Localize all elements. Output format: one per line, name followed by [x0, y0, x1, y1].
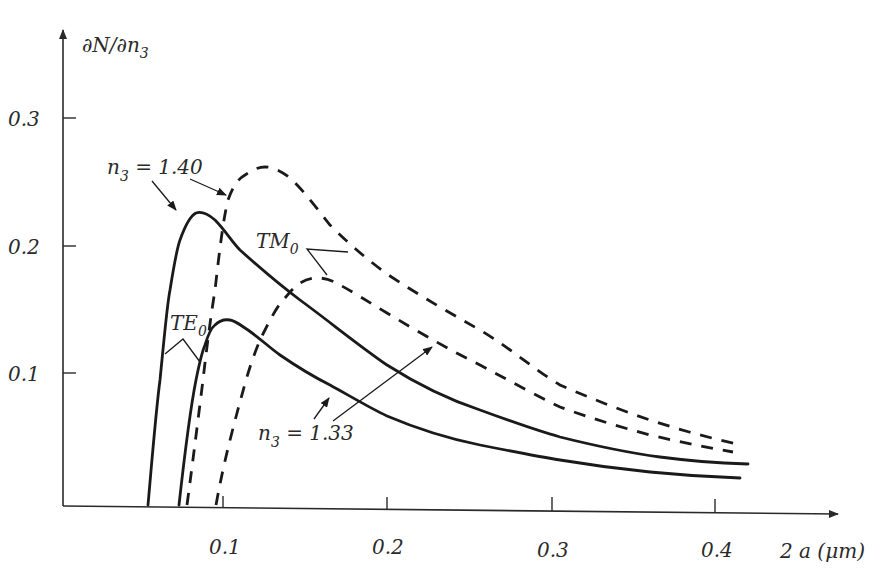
arrow-icon: [190, 179, 226, 195]
curve-te0-n133: [179, 320, 740, 505]
y-tick-label: 0.2: [8, 235, 40, 259]
y-axis-label: ∂N/∂n3: [82, 33, 149, 61]
x-tick-label: 0.1: [209, 535, 241, 559]
curve-tm0-n140: [187, 167, 741, 505]
label-tm0: TM0: [256, 229, 299, 257]
y-tick-label: 0.3: [8, 107, 40, 131]
curve-te0-n140: [148, 212, 748, 505]
x-axis-label: 2 a (μm): [779, 539, 865, 563]
annotation-tm0: TM0: [256, 229, 348, 275]
curve-tm0-n133: [216, 278, 733, 505]
y-tick-label: 0.1: [8, 362, 40, 386]
arrow-icon: [152, 181, 176, 210]
x-tick-label: 0.3: [537, 538, 569, 562]
arrow-icon: [314, 398, 329, 419]
annotation-n3-133: n3 = 1.33: [258, 347, 432, 450]
x-tick-label: 0.2: [372, 535, 404, 559]
x-tick-label: 0.4: [701, 538, 733, 562]
tm0-pointer: [307, 249, 348, 275]
chart-canvas: 0.3 0.2 0.1 0.1 0.2 0.3 0.4 ∂N/∂n3 2 a (…: [0, 0, 872, 578]
x-axis: [63, 506, 838, 514]
annotation-n3-140: n3 = 1.40: [107, 155, 226, 210]
label-n3-133: n3 = 1.33: [258, 421, 354, 450]
te0-pointer: [165, 339, 200, 362]
label-te0: TE0: [170, 311, 207, 339]
label-n3-140: n3 = 1.40: [107, 155, 203, 184]
